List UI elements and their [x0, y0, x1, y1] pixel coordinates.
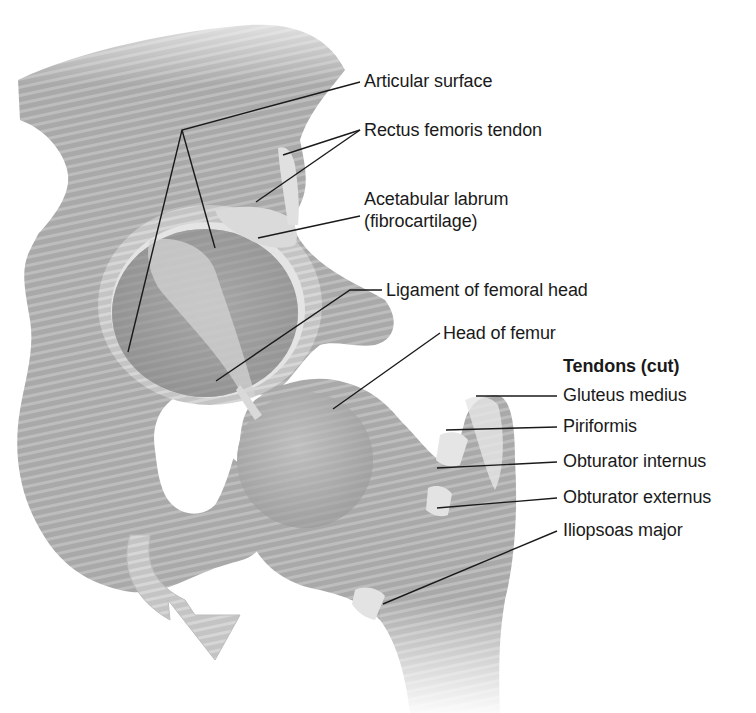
heading-tendons-cut: Tendons (cut)	[563, 356, 679, 377]
label-head-of-femur: Head of femur	[443, 323, 556, 344]
label-acetabular-labrum-sub: (fibrocartilage)	[364, 211, 477, 232]
label-gluteus-medius: Gluteus medius	[563, 385, 687, 406]
label-rectus-femoris-tendon: Rectus femoris tendon	[364, 120, 542, 141]
label-obturator-internus: Obturator internus	[563, 451, 706, 472]
label-piriformis: Piriformis	[563, 416, 637, 437]
label-articular-surface: Articular surface	[364, 71, 492, 92]
hip-joint-diagram: Articular surface Rectus femoris tendon …	[0, 0, 756, 713]
label-acetabular-labrum: Acetabular labrum	[364, 189, 508, 210]
label-iliopsoas-major: Iliopsoas major	[563, 520, 683, 541]
label-obturator-externus: Obturator externus	[563, 487, 711, 508]
label-ligament-femoral-head: Ligament of femoral head	[386, 280, 588, 301]
